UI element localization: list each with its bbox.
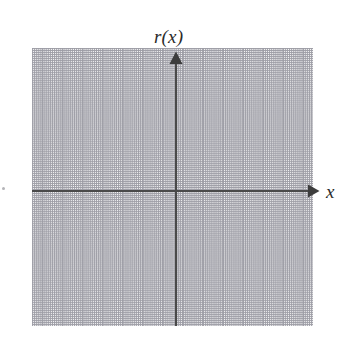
x-axis-label: x bbox=[326, 182, 334, 201]
speck-artifact-icon bbox=[2, 187, 5, 190]
y-axis-label: r(x) bbox=[154, 27, 183, 46]
coordinate-grid bbox=[32, 48, 313, 326]
figure-root: r(x) x bbox=[0, 0, 352, 341]
major-gridlines bbox=[32, 48, 313, 326]
